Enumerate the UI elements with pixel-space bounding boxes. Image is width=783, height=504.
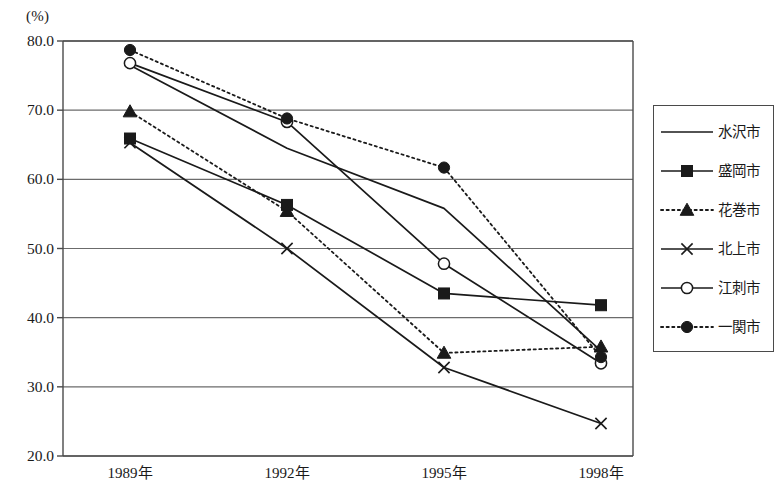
legend-item-4[interactable]: 北上市 xyxy=(654,237,775,261)
series-line xyxy=(130,112,601,353)
series-5 xyxy=(124,44,606,362)
data-point-marker xyxy=(124,58,135,69)
data-point-marker xyxy=(439,288,450,299)
data-point-marker xyxy=(596,300,607,311)
legend-swatch-icon xyxy=(658,277,716,299)
legend-swatch-icon xyxy=(658,316,716,338)
legend-item-6[interactable]: 一関市 xyxy=(654,315,775,339)
legend-label: 水沢市 xyxy=(718,125,760,140)
data-point-marker xyxy=(123,105,137,117)
series-1 xyxy=(125,133,607,311)
y-axis-tick-label: 80.0 xyxy=(2,33,54,49)
legend-label: 一関市 xyxy=(718,320,760,335)
data-point-marker xyxy=(124,44,135,55)
series-line xyxy=(130,139,601,306)
legend-marker-icon xyxy=(680,203,694,215)
series-layer xyxy=(123,44,608,429)
legend-item-3[interactable]: 花巻市 xyxy=(654,198,775,222)
data-point-marker xyxy=(438,258,449,269)
data-point-marker xyxy=(438,362,449,373)
legend-item-2[interactable]: 盛岡市 xyxy=(654,159,775,183)
x-axis-tick-label: 1998年 xyxy=(556,466,646,481)
x-axis-tick-label: 1995年 xyxy=(399,466,489,481)
y-axis-tick-label: 70.0 xyxy=(2,102,54,118)
x-axis-tick-label: 1992年 xyxy=(242,466,332,481)
legend-item-5[interactable]: 江刺市 xyxy=(654,276,775,300)
data-point-marker xyxy=(595,351,606,362)
data-point-marker xyxy=(281,113,292,124)
data-point-marker xyxy=(437,346,451,358)
legend-marker-icon xyxy=(681,282,692,293)
data-point-marker xyxy=(595,418,606,429)
legend-swatch-icon xyxy=(658,199,716,221)
y-axis-tick-label: 60.0 xyxy=(2,172,54,188)
legend-label: 北上市 xyxy=(718,242,760,257)
legend-label: 花巻市 xyxy=(718,203,760,218)
legend-item-1[interactable]: 水沢市 xyxy=(654,120,775,144)
y-axis-tick-label: 50.0 xyxy=(2,241,54,257)
series-4 xyxy=(124,58,606,369)
legend-marker-icon xyxy=(682,166,693,177)
gridlines xyxy=(63,41,633,456)
y-axis-tick-label: 40.0 xyxy=(2,310,54,326)
legend-swatch-icon xyxy=(658,121,716,143)
legend-marker-icon xyxy=(681,321,692,332)
line-chart: (%) 80.070.060.050.040.030.020.0 1989年19… xyxy=(0,0,783,504)
y-axis-tick-label: 30.0 xyxy=(2,379,54,395)
x-axis-tick-label: 1989年 xyxy=(85,466,175,481)
data-point-marker xyxy=(438,162,449,173)
legend-label: 盛岡市 xyxy=(718,164,760,179)
legend-swatch-icon xyxy=(658,238,716,260)
legend-label: 江刺市 xyxy=(718,281,760,296)
legend: 水沢市盛岡市花巻市北上市江刺市一関市 xyxy=(653,105,774,352)
y-axis-tick-label: 20.0 xyxy=(2,448,54,464)
series-line xyxy=(130,63,601,363)
legend-swatch-icon xyxy=(658,160,716,182)
series-line xyxy=(130,50,601,357)
